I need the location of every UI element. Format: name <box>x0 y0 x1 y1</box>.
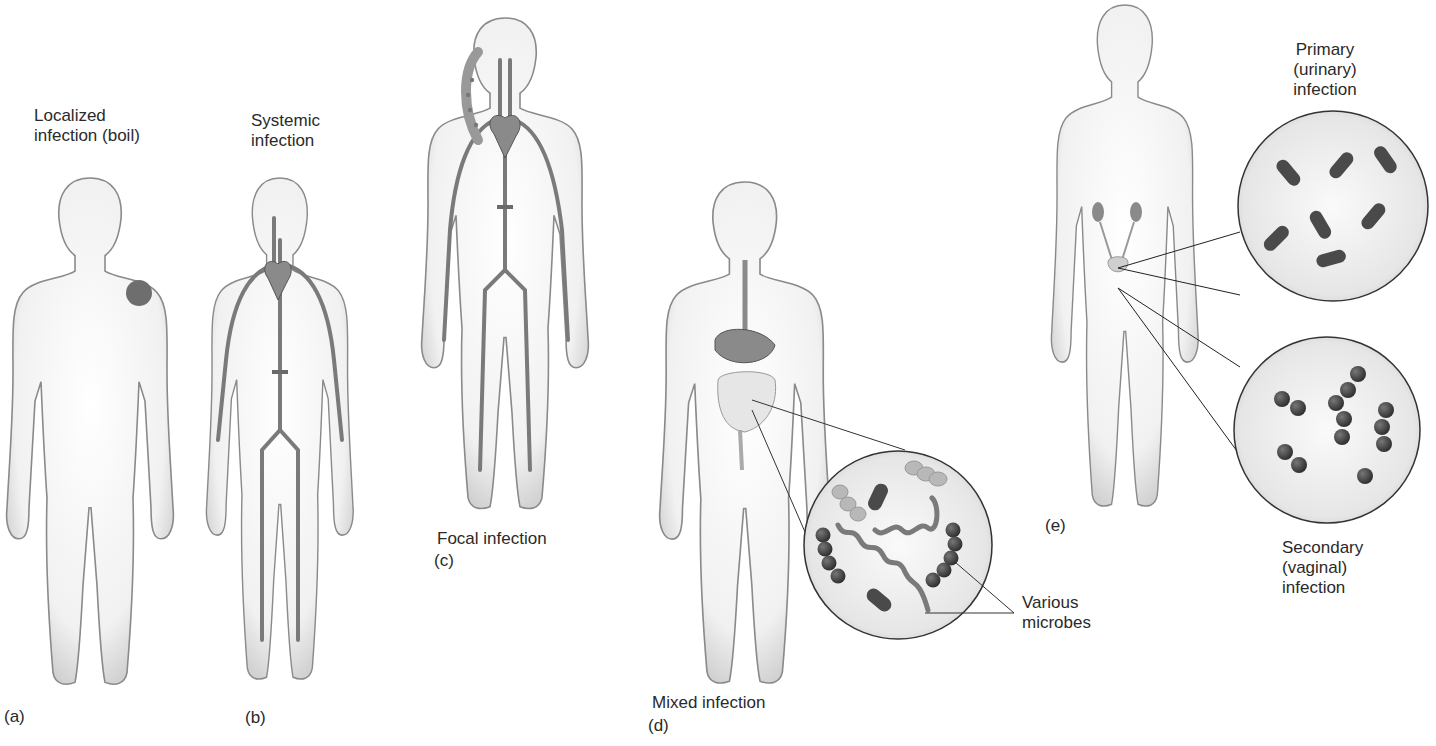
panel-b-body <box>206 178 353 679</box>
kidney-icon <box>1092 202 1104 222</box>
panel-b-letter: (b) <box>245 708 266 728</box>
panel-d-title: Mixed infection <box>652 693 765 713</box>
panel-b-title: Systemic infection <box>251 111 320 151</box>
panel-e-body <box>1051 5 1242 506</box>
primary-urinary-label: Primary (urinary) infection <box>1270 40 1380 100</box>
secondary-vaginal-lens <box>1234 337 1420 523</box>
primary-urinary-lens <box>1238 111 1428 301</box>
kidney-icon <box>1130 202 1142 222</box>
panel-d-letter: (d) <box>648 716 669 736</box>
secondary-vaginal-label: Secondary (vaginal) infection <box>1282 538 1363 598</box>
panel-a-letter: (a) <box>4 707 25 727</box>
panel-c-title: Focal infection <box>437 529 547 549</box>
mixed-microbes-lens <box>804 451 1014 639</box>
panel-c-letter: (c) <box>434 551 454 571</box>
panel-e-letter: (e) <box>1045 516 1066 536</box>
panel-c-body <box>422 18 589 509</box>
infection-types-figure <box>0 0 1436 746</box>
panel-a-body <box>7 178 174 684</box>
panel-a-title: Localized infection (boil) <box>34 106 140 146</box>
boil-marker <box>126 280 152 306</box>
various-microbes-label: Various microbes <box>1022 593 1091 633</box>
